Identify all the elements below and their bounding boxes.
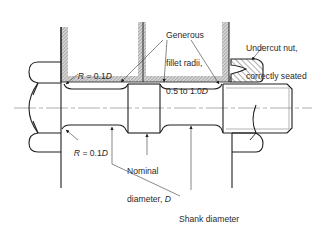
nominal-label-line2: diameter, D xyxy=(127,195,171,204)
nominal-diameter-label: Nominal diameter, D xyxy=(127,148,171,214)
bolt-thread-end xyxy=(223,84,292,188)
left-plate-upright xyxy=(61,27,68,82)
fillet-radii-label: Generous fillet radii, 0.5 to 1.0D xyxy=(166,12,208,106)
fillet-label-line2: fillet radii, xyxy=(166,59,208,68)
radius-top-label: R = 0.1D xyxy=(73,63,112,82)
shank-label-line1: Shank diameter xyxy=(179,215,239,224)
nut-label-line2: correctly seated xyxy=(246,72,307,81)
shank-diameter-label: Shank diameter less than root diameter o… xyxy=(179,196,239,238)
middle-plate-upright xyxy=(138,22,146,77)
leader-radius-bottom xyxy=(66,130,78,140)
nominal-label-line1: Nominal xyxy=(127,167,171,176)
right-plate-upright xyxy=(222,22,229,77)
radius-bottom-label: R = 0.1D xyxy=(69,140,108,159)
undercut-nut-label: Undercut nut, correctly seated xyxy=(246,25,307,91)
bolt-head xyxy=(29,27,61,188)
fillet-label-line3: 0.5 to 1.0D xyxy=(166,87,208,96)
nut-label-line1: Undercut nut, xyxy=(246,44,307,53)
fillet-label-line1: Generous xyxy=(166,31,208,40)
